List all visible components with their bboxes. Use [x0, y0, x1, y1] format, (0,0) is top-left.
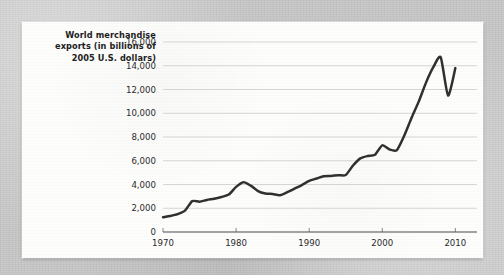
x-tick-label-group: 19701980199020002010: [152, 238, 466, 248]
y-tick-label-2000: 2,000: [131, 203, 156, 213]
x-tick-label-2010: 2010: [444, 238, 466, 248]
line-chart: 02,0004,0006,0008,00010,00012,00014,0001…: [22, 22, 483, 258]
x-tick-label-2000: 2000: [371, 238, 393, 248]
y-tick-label-4000: 4,000: [131, 180, 156, 190]
x-tick-label-1980: 1980: [225, 238, 247, 248]
x-tick-label-1970: 1970: [152, 238, 174, 248]
y-tick-label-12000: 12,000: [126, 85, 156, 95]
gridline-group: [163, 42, 477, 208]
y-tick-label-10000: 10,000: [126, 108, 156, 118]
y-tick-label-0: 0: [151, 227, 156, 237]
y-tick-label-16000: 16,000: [126, 37, 156, 47]
y-tick-label-8000: 8,000: [131, 132, 156, 142]
y-tick-label-group: 02,0004,0006,0008,00010,00012,00014,0001…: [126, 37, 156, 237]
y-tick-label-14000: 14,000: [126, 61, 156, 71]
x-tick-label-1990: 1990: [298, 238, 320, 248]
x-tick-mark-group: [163, 228, 455, 232]
chart-figure-panel: World merchandise exports (in billions o…: [22, 22, 483, 258]
y-tick-label-6000: 6,000: [131, 156, 156, 166]
